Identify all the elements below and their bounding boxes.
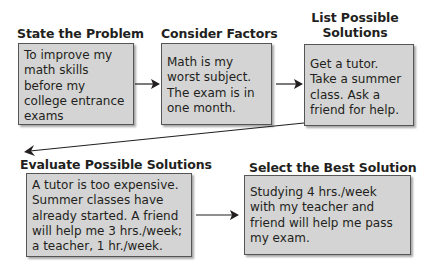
- arrow-solutions-to-evaluate: [24, 123, 304, 156]
- arrow-evaluate-to-select: [196, 210, 239, 220]
- arrow-problem-to-factors: [135, 79, 160, 89]
- arrow-factors-to-solutions: [276, 79, 303, 89]
- connector-arrows: [0, 0, 428, 274]
